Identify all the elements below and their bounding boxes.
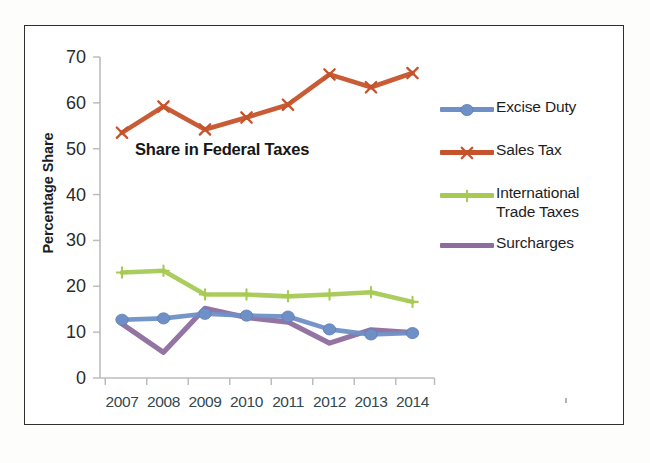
- legend-item-sales-tax[interactable]: Sales Tax: [438, 141, 618, 162]
- x-tick-label: 2010: [224, 394, 270, 410]
- y-tick-label: 10: [52, 323, 86, 341]
- legend-swatch-plus-icon: [438, 185, 496, 205]
- y-tick-label: 40: [52, 186, 86, 204]
- y-tick-label: 70: [52, 48, 86, 66]
- legend-swatch-x-icon: [438, 142, 496, 162]
- plus-marker-icon: [458, 187, 476, 205]
- chart-title: Share in Federal Taxes: [135, 140, 309, 159]
- y-tick-label: 0: [52, 369, 86, 387]
- legend-swatch-diamond-icon: [438, 99, 496, 119]
- x-tick-label: 2007: [99, 394, 145, 410]
- legend-item-excise-duty[interactable]: Excise Duty: [438, 98, 618, 119]
- y-tick-label: 60: [52, 94, 86, 112]
- legend-item-international-trade-taxes[interactable]: InternationalTrade Taxes: [438, 184, 618, 222]
- legend-swatch-none-icon: [438, 235, 496, 255]
- x-tick-label: 2009: [182, 394, 228, 410]
- scan-artifact-speck: [565, 398, 567, 403]
- x-tick-label: 2013: [348, 394, 394, 410]
- y-tick-label: 30: [52, 231, 86, 249]
- x-tick-label: 2008: [141, 394, 187, 410]
- chart-legend: Excise DutySales TaxInternationalTrade T…: [438, 98, 618, 277]
- legend-label: Surcharges: [496, 234, 574, 253]
- y-tick-label: 20: [52, 277, 86, 295]
- scanned-page: Percentage Share 706050403020100 2007200…: [0, 0, 650, 463]
- legend-label: Excise Duty: [496, 98, 576, 117]
- legend-item-surcharges[interactable]: Surcharges: [438, 234, 618, 255]
- x-tick-label: 2014: [390, 394, 436, 410]
- legend-label: InternationalTrade Taxes: [496, 184, 579, 222]
- x-tick-label: 2012: [307, 394, 353, 410]
- diamond-marker-icon: [458, 101, 476, 119]
- legend-label: Sales Tax: [496, 141, 562, 160]
- x-tick-label: 2011: [265, 394, 311, 410]
- x-marker-icon: [458, 144, 476, 162]
- y-tick-label: 50: [52, 140, 86, 158]
